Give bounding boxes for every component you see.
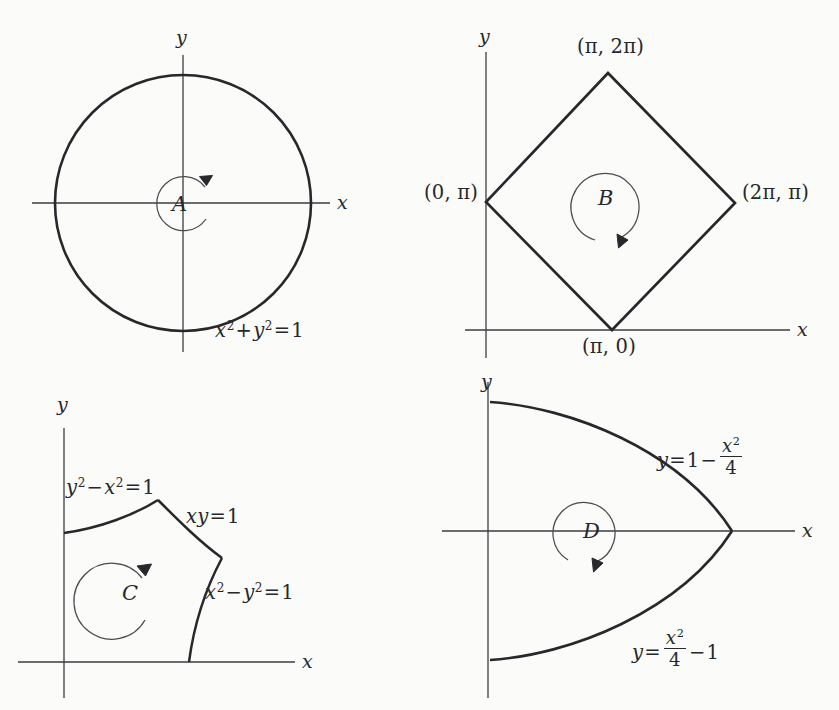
panel-c-curve-label-bottom: x2−y2=1 [205,583,294,603]
panel-a-graphic [0,0,420,360]
panel-d-region-label: D [583,521,600,542]
panel-c-x-axis-label: x [302,652,313,671]
figure-root: x y A x2+y2=1 x y B (π, 2π) (2π, π) (π, … [0,0,839,710]
panel-a-x-axis-label: x [337,193,348,212]
panel-d-graphic [420,360,839,710]
panel-b-vertex-right-label: (2π, π) [742,183,809,203]
panel-b-region-label: B [598,188,614,209]
panel-d-curve-label-lower: y=x24−1 [632,629,719,671]
panel-b-y-axis-label: y [479,27,490,46]
panel-b-vertex-left-label: (0, π) [424,183,478,203]
panel-b-x-axis-label: x [797,320,808,339]
panel-c-y-axis-label: y [57,395,68,414]
panel-b-vertex-top-label: (π, 2π) [577,37,644,57]
panel-c-region-label: C [122,583,138,604]
panel-a-region-label: A [172,194,187,215]
panel-a-curve-equation-label: x2+y2=1 [215,321,304,341]
panel-d-y-axis-label: y [481,372,492,391]
panel-c-curve-label-top: y2−x2=1 [66,478,155,498]
panel-a-y-axis-label: y [176,28,187,47]
panel-c-curve-label-right: xy=1 [186,507,240,527]
panel-d-orientation-arrowhead [592,558,603,572]
panel-c-boundary-hyperbola-right [189,558,222,662]
panel-d-x-axis-label: x [802,521,813,540]
panel-c-boundary-hyperbola-top [64,500,158,533]
panel-d-curve-label-upper: y=1−x24 [657,437,744,479]
panel-b-vertex-bottom-label: (π, 0) [582,337,636,357]
